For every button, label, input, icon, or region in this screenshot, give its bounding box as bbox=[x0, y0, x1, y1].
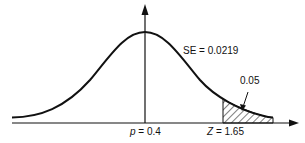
tail-area-label: 0.05 bbox=[240, 75, 259, 86]
mean-value: = 0.4 bbox=[136, 126, 161, 137]
se-label: SE = 0.0219 bbox=[183, 45, 238, 56]
mean-label: p = 0.4 bbox=[130, 126, 161, 137]
x-axis-arrow-icon bbox=[289, 120, 299, 127]
z-value: = 1.65 bbox=[213, 126, 244, 137]
normal-curve-diagram bbox=[0, 0, 305, 143]
y-axis bbox=[142, 4, 149, 123]
tail-pointer bbox=[240, 92, 248, 111]
z-label: Z = 1.65 bbox=[207, 126, 244, 137]
y-axis-arrow-icon bbox=[142, 4, 149, 15]
